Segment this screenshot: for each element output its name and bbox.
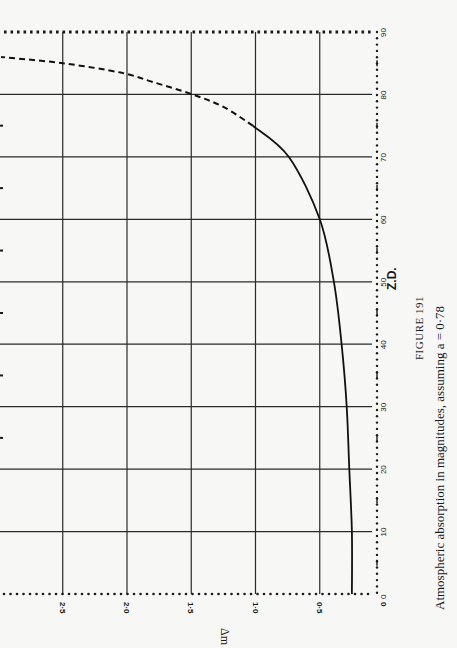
y-axis-title: Δm <box>217 628 232 645</box>
right-dotted-axis <box>376 547 378 549</box>
bottom-dotted-axis <box>211 593 214 596</box>
bottom-dotted-axis <box>22 593 25 596</box>
right-dotted-axis <box>376 459 378 461</box>
bottom-dotted-axis <box>146 593 149 596</box>
bottom-dotted-axis <box>42 593 45 596</box>
top-dotted-border <box>316 31 319 34</box>
right-dotted-axis <box>376 554 378 556</box>
x-axis-title: Z.D. <box>385 267 399 290</box>
top-dotted-border <box>37 31 40 34</box>
top-dotted-border <box>362 31 365 34</box>
right-dotted-axis <box>376 396 378 398</box>
right-dotted-axis <box>376 195 378 197</box>
top-dotted-border <box>238 31 241 34</box>
bottom-dotted-axis <box>198 593 201 596</box>
right-dotted-axis <box>376 516 378 518</box>
right-dotted-axis <box>376 409 378 411</box>
bottom-dotted-axis <box>256 593 259 596</box>
bottom-dotted-axis <box>263 593 266 596</box>
top-dotted-border <box>258 31 261 34</box>
bottom-dotted-axis <box>237 593 240 596</box>
top-dotted-border <box>115 31 118 34</box>
bottom-dotted-axis <box>328 593 331 596</box>
top-dotted-border <box>219 31 222 34</box>
left-edge-mark <box>0 250 3 252</box>
top-dotted-border <box>4 31 7 34</box>
left-edge-mark <box>0 187 3 189</box>
right-dotted-axis <box>376 289 378 291</box>
top-dotted-border <box>17 31 20 34</box>
top-dotted-border <box>160 31 163 34</box>
bottom-dotted-axis <box>341 593 344 596</box>
right-dotted-axis <box>376 100 378 102</box>
top-dotted-border <box>193 31 196 34</box>
left-edge-mark <box>0 437 3 439</box>
right-dotted-axis <box>376 352 378 354</box>
right-dotted-axis <box>376 529 378 531</box>
right-dotted-axis <box>376 295 378 297</box>
bottom-dotted-axis <box>250 593 253 596</box>
right-dotted-axis <box>376 510 378 512</box>
bottom-dotted-axis <box>152 593 155 596</box>
right-dotted-axis <box>376 151 378 153</box>
left-edge-mark <box>0 125 3 127</box>
top-dotted-border <box>24 31 27 34</box>
top-dotted-border <box>82 31 85 34</box>
right-dotted-axis <box>376 226 378 228</box>
right-dotted-axis <box>376 132 378 134</box>
top-dotted-border <box>329 31 332 34</box>
top-dotted-border <box>297 31 300 34</box>
top-dotted-border <box>56 31 59 34</box>
right-dotted-axis <box>376 478 378 480</box>
right-dotted-axis <box>376 503 378 505</box>
bottom-dotted-axis <box>133 593 136 596</box>
right-dotted-axis <box>376 321 378 323</box>
right-dotted-axis <box>376 239 378 241</box>
bottom-dotted-axis <box>94 593 97 596</box>
right-dotted-axis <box>376 106 378 108</box>
x-tick-label: 90 <box>379 28 388 37</box>
top-dotted-border <box>167 31 170 34</box>
y-tick-label: 2·5 <box>58 602 67 614</box>
chart-axes: 010203040506070809000·51·01·52·02·5 <box>0 28 388 615</box>
figure-caption: Atmospheric absorption in magnitudes, as… <box>432 306 448 610</box>
right-dotted-axis <box>376 31 378 33</box>
right-dotted-axis <box>376 428 378 430</box>
x-tick-label: 0 <box>379 594 388 599</box>
right-dotted-axis <box>376 466 378 468</box>
right-dotted-axis <box>376 447 378 449</box>
top-dotted-border <box>95 31 98 34</box>
bottom-dotted-axis <box>302 593 305 596</box>
right-dotted-axis <box>376 56 378 58</box>
top-dotted-border <box>303 31 306 34</box>
bottom-dotted-axis <box>126 593 129 596</box>
bottom-dotted-axis <box>269 593 272 596</box>
right-dotted-axis <box>376 302 378 304</box>
top-dotted-border <box>50 31 53 34</box>
right-dotted-axis <box>376 214 378 216</box>
bottom-dotted-axis <box>74 593 77 596</box>
bottom-dotted-axis <box>282 593 285 596</box>
x-tick-label: 10 <box>379 527 388 536</box>
right-dotted-axis <box>376 37 378 39</box>
y-tick-label: 0 <box>379 602 388 607</box>
top-dotted-border <box>11 31 14 34</box>
right-dotted-axis <box>376 264 378 266</box>
figure-number: FIGURE 191 <box>413 296 425 360</box>
bottom-dotted-axis <box>9 593 12 596</box>
top-dotted-border <box>355 31 358 34</box>
right-dotted-axis <box>376 201 378 203</box>
right-dotted-axis <box>376 522 378 524</box>
top-dotted-border <box>69 31 72 34</box>
top-dotted-border <box>277 31 280 34</box>
right-dotted-axis <box>376 43 378 45</box>
bottom-dotted-axis <box>139 593 142 596</box>
y-tick-label: 2·0 <box>122 602 131 614</box>
right-dotted-axis <box>376 277 378 279</box>
top-dotted-border <box>154 31 157 34</box>
bottom-dotted-axis <box>165 593 168 596</box>
right-dotted-axis <box>376 157 378 159</box>
absorption-curve-solid <box>253 126 352 594</box>
right-dotted-axis <box>376 88 378 90</box>
top-dotted-border <box>147 31 150 34</box>
